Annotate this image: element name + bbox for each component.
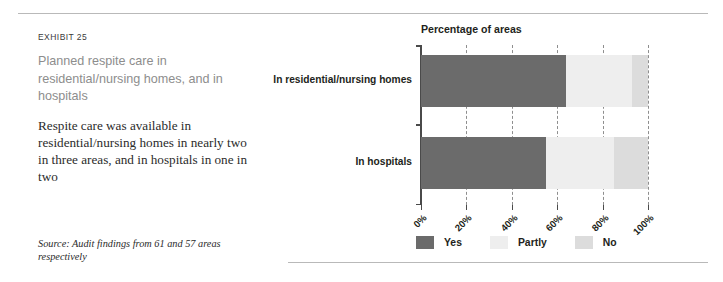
category-label-1: In hospitals (355, 156, 412, 167)
x-tick-label: 20% (453, 212, 474, 233)
chart-legend: YesPartlyNo (416, 236, 645, 249)
x-tick-label: 60% (544, 212, 565, 233)
x-tick-label: 80% (589, 212, 610, 233)
bar-segment-yes-1 (421, 137, 546, 189)
x-tick-label: 40% (498, 212, 519, 233)
x-tick-label: 0% (411, 212, 429, 230)
bar-segment-yes-0 (421, 55, 566, 107)
legend-label-partly: Partly (518, 237, 547, 248)
bar-segment-partly-0 (566, 55, 632, 107)
table-row: In hospitals (421, 137, 648, 189)
gridline-100 (648, 45, 649, 205)
exhibit-top-rule (18, 13, 708, 14)
x-tick-stem (648, 205, 649, 210)
legend-label-yes: Yes (444, 237, 462, 248)
legend-swatch-yes (416, 236, 434, 249)
plot-area: In residential/nursing homes In hospital… (421, 45, 648, 205)
bar-segment-partly-1 (546, 137, 614, 189)
x-tick-stem (421, 205, 422, 210)
exhibit-source-note: Source: Audit findings from 61 and 57 ar… (38, 238, 263, 263)
bar-segment-no-1 (614, 137, 648, 189)
x-tick-label: 100% (631, 212, 656, 237)
category-label-0: In residential/nursing homes (273, 74, 412, 85)
exhibit-bottom-rule (288, 262, 708, 263)
x-tick-stem (603, 205, 604, 210)
exhibit-number-label: EXHIBIT 25 (38, 32, 250, 42)
legend-item-partly[interactable]: Partly (490, 236, 547, 249)
y-axis-cap-mid (416, 124, 421, 126)
x-tick-stem (466, 205, 467, 210)
x-tick-stem (557, 205, 558, 210)
chart-title: Percentage of areas (421, 23, 522, 35)
legend-item-no[interactable]: No (575, 236, 617, 249)
x-tick-stem (512, 205, 513, 210)
chart-container: Percentage of areas In residential/nursi… (288, 18, 708, 258)
legend-swatch-no (575, 236, 593, 249)
table-row: In residential/nursing homes (421, 55, 648, 107)
legend-label-no: No (603, 237, 617, 248)
exhibit-body-text: Respite care was available in residentia… (38, 117, 250, 186)
bar-segment-no-0 (632, 55, 648, 107)
y-axis-cap-top (416, 45, 421, 47)
exhibit-text-column: EXHIBIT 25 Planned respite care in resid… (38, 32, 250, 185)
legend-item-yes[interactable]: Yes (416, 236, 462, 249)
legend-swatch-partly (490, 236, 508, 249)
exhibit-heading: Planned respite care in residential/nurs… (38, 53, 250, 106)
